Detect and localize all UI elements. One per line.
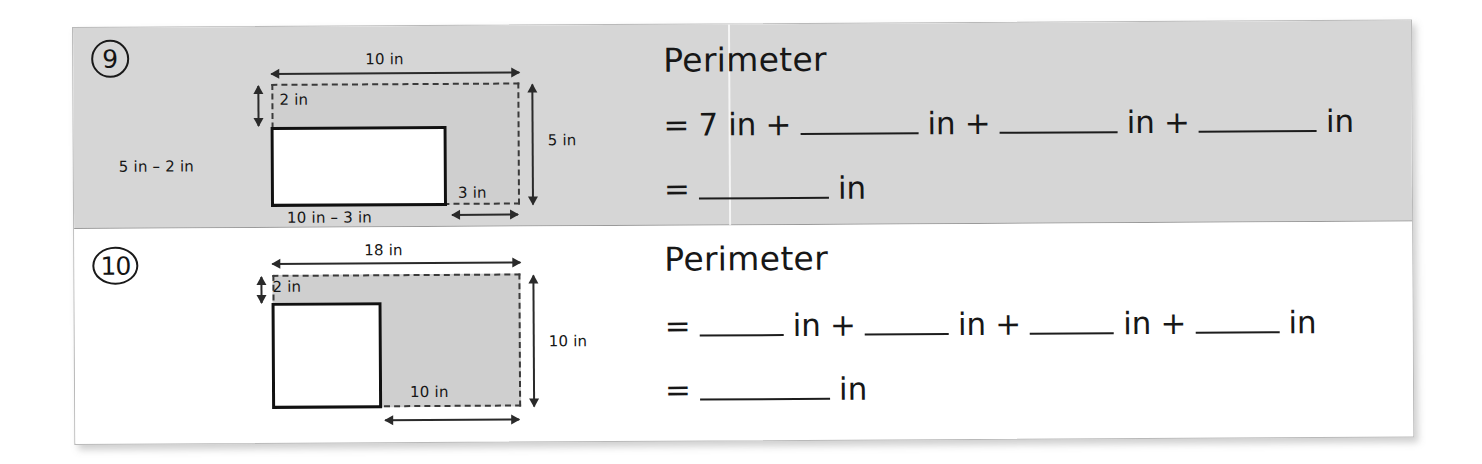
plus-sign: + xyxy=(830,307,856,343)
perimeter-heading-10: Perimeter xyxy=(664,239,828,279)
perimeter-line2-9: = in xyxy=(664,170,866,207)
unit-label: in xyxy=(1326,103,1354,139)
dimension-arrow-notch-height-10 xyxy=(260,277,262,303)
problem-number-9: 9 xyxy=(91,40,129,78)
unit-label: in xyxy=(793,307,821,343)
dimension-label-top-9: 10 in xyxy=(365,50,404,68)
dimension-label-notch-height-10: 2 in xyxy=(272,278,301,296)
dimension-arrow-top-9 xyxy=(271,72,519,75)
shape-solid-rectangle-9 xyxy=(271,126,447,207)
perimeter-heading-9: Perimeter xyxy=(663,40,827,80)
perimeter-line1-10: = in + in + in + in xyxy=(665,304,1317,344)
answer-blank-side-4[interactable] xyxy=(1195,305,1279,333)
unit-label: in xyxy=(1288,304,1316,340)
plus-sign: + xyxy=(965,105,991,141)
plus-sign: + xyxy=(765,106,791,142)
answer-blank-side-2[interactable] xyxy=(865,307,949,335)
dimension-label-top-10: 18 in xyxy=(364,241,403,259)
shape-solid-square-10 xyxy=(272,302,383,409)
dimension-label-right-9: 5 in xyxy=(548,131,577,149)
equals-sign: = xyxy=(663,107,689,143)
figure-problem-9: 10 in 2 in 5 in 3 in 5 in – 2 in 10 in –… xyxy=(213,35,634,222)
dimension-arrow-right-9 xyxy=(531,84,534,204)
dimension-arrow-bottom-10 xyxy=(385,419,519,422)
unit-label: in xyxy=(1123,305,1151,341)
problem-row-9: 9 10 in 2 in 5 in 3 in 5 in – 2 in xyxy=(73,21,1412,229)
answer-blank-side-4[interactable] xyxy=(1199,104,1317,133)
perimeter-line1-9: = 7 in + in + in + in xyxy=(663,103,1354,143)
unit-label: in xyxy=(839,371,867,407)
unit-label: in xyxy=(958,306,986,342)
equals-sign: = xyxy=(664,171,690,207)
answer-blank-total-10[interactable] xyxy=(700,372,830,401)
unit-label: in xyxy=(1127,104,1155,140)
figure-problem-10: 18 in 2 in 10 in 10 in xyxy=(214,238,635,435)
dimension-arrow-notch-height-9 xyxy=(257,86,259,126)
answer-blank-side-1[interactable] xyxy=(700,308,784,336)
answer-blank-side-3[interactable] xyxy=(1030,306,1114,334)
dimension-label-notch-width-9: 3 in xyxy=(458,184,487,202)
equals-sign: = xyxy=(665,372,691,408)
unit-label: in xyxy=(927,105,955,141)
dimension-label-bottom-10: 10 in xyxy=(410,383,449,401)
known-side-value-9: 7 in xyxy=(698,106,756,142)
problem-row-10: 10 18 in 2 in 10 in 10 in Perimeter xyxy=(74,222,1413,443)
perimeter-line2-10: = in xyxy=(665,371,867,408)
dimension-arrow-top-10 xyxy=(272,261,520,264)
dimension-arrow-right-10 xyxy=(532,275,535,406)
answer-blank-side-2[interactable] xyxy=(800,106,918,135)
plus-sign: + xyxy=(1164,104,1190,140)
dimension-label-notch-height-9: 2 in xyxy=(279,91,308,109)
equals-sign: = xyxy=(665,308,691,344)
answer-blank-total-9[interactable] xyxy=(699,171,829,200)
problem-number-10: 10 xyxy=(92,247,138,285)
worksheet-card: 9 10 in 2 in 5 in 3 in 5 in – 2 in xyxy=(72,20,1414,445)
plus-sign: + xyxy=(995,306,1021,342)
dimension-label-bottom-9: 10 in – 3 in xyxy=(287,208,372,226)
unit-label: in xyxy=(838,170,866,206)
dimension-arrow-notch-width-9 xyxy=(452,214,518,216)
plus-sign: + xyxy=(1160,305,1186,341)
work-area-9: Perimeter = 7 in + in + in + in = in xyxy=(663,21,1393,25)
dimension-label-right-10: 10 in xyxy=(549,332,588,350)
dimension-label-left-9: 5 in – 2 in xyxy=(119,157,194,175)
answer-blank-side-3[interactable] xyxy=(1000,105,1118,134)
